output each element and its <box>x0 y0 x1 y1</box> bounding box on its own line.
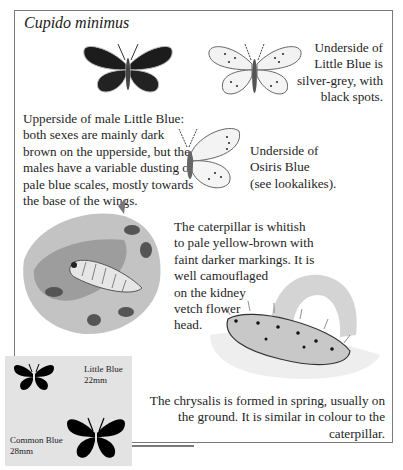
caption-chrysalis: The chrysalis is formed in spring, usual… <box>145 393 385 442</box>
osiris-blue-underside-icon <box>175 125 245 195</box>
species-title: Cupido minimus <box>24 14 129 32</box>
chrysalis-illustration <box>200 265 390 395</box>
common-blue-silhouette-icon <box>66 415 126 461</box>
butterfly-upperside-male-icon <box>80 40 176 100</box>
little-blue-silhouette-icon <box>12 362 56 392</box>
caterpillar-on-vetch-illustration <box>14 200 164 340</box>
caption-underside-little-blue: Underside of Little Blue is silver-grey,… <box>273 40 383 106</box>
common-blue-size-label: Common Blue 28mm <box>10 435 63 457</box>
caption-underside-osiris: Underside of Osiris Blue (see lookalikes… <box>250 143 380 192</box>
leader-line <box>132 445 194 447</box>
little-blue-size-label: Little Blue 22mm <box>84 364 123 386</box>
